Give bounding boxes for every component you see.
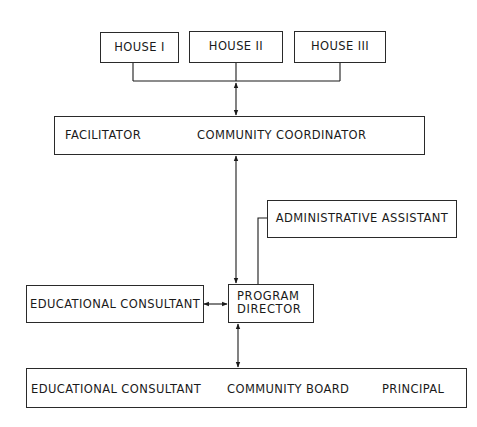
house-3-label: HOUSE III: [311, 41, 369, 53]
community-board-label: COMMUNITY BOARD: [227, 384, 349, 396]
bottom-educational-consultant-label: EDUCATIONAL CONSULTANT: [31, 384, 201, 396]
educational-consultant-label: EDUCATIONAL CONSULTANT: [30, 299, 200, 311]
house-1-box: HOUSE I: [100, 32, 179, 63]
program-director-box: PROGRAM DIRECTOR: [228, 284, 314, 323]
program-director-line1: PROGRAM: [237, 289, 299, 303]
administrative-assistant-label: ADMINISTRATIVE ASSISTANT: [276, 213, 448, 225]
educational-consultant-box: EDUCATIONAL CONSULTANT: [26, 285, 204, 323]
house-3-box: HOUSE III: [294, 31, 386, 63]
community-coordinator-label: COMMUNITY COORDINATOR: [197, 130, 366, 142]
facilitator-label: FACILITATOR: [65, 130, 141, 142]
administrative-assistant-box: ADMINISTRATIVE ASSISTANT: [267, 200, 457, 238]
house-1-label: HOUSE I: [114, 42, 165, 54]
house-2-label: HOUSE II: [209, 41, 263, 53]
program-director-label: PROGRAM DIRECTOR: [237, 290, 301, 316]
program-director-line2: DIRECTOR: [237, 302, 301, 316]
principal-label: PRINCIPAL: [382, 384, 444, 396]
house-2-box: HOUSE II: [189, 31, 283, 63]
